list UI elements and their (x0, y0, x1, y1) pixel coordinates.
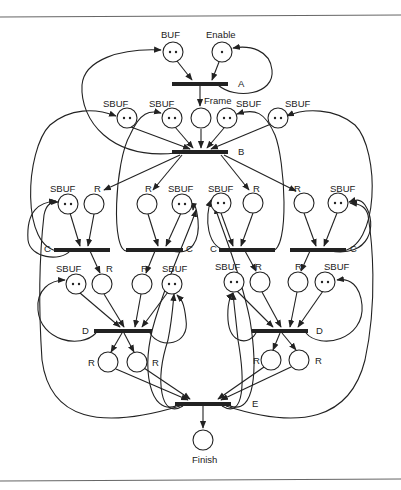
place-c-r4: R (294, 183, 314, 213)
svg-text:SBUF: SBUF (149, 98, 175, 109)
petri-net-diagram: A B C C C C D D E BUF Enable (0, 0, 401, 490)
place-e-r3: R (253, 350, 281, 370)
svg-text:R: R (145, 183, 152, 194)
svg-text:SBUF: SBUF (330, 183, 356, 194)
top-rule (0, 15, 401, 17)
svg-text:SBUF: SBUF (236, 98, 262, 109)
place-c-sbuf3: SBUF (208, 183, 234, 213)
arcs (28, 47, 373, 428)
place-enable: Enable (206, 29, 236, 62)
place-c-r3: R (243, 183, 263, 213)
svg-text:BUF: BUF (161, 29, 180, 40)
svg-text:R: R (315, 355, 322, 366)
bottom-rule (0, 479, 401, 481)
place-c-r1: R (84, 183, 104, 214)
place-c-sbuf1: SBUF (50, 183, 78, 214)
transition-c1: C (44, 243, 110, 254)
svg-text:SBUF: SBUF (50, 183, 76, 194)
svg-text:R: R (106, 263, 113, 274)
svg-text:Frame: Frame (204, 95, 231, 106)
place-buf: BUF (161, 29, 183, 62)
svg-text:Finish: Finish (192, 454, 217, 465)
svg-text:SBUF: SBUF (162, 263, 188, 274)
svg-text:R: R (152, 357, 159, 368)
place-c-sbuf4: SBUF (328, 183, 356, 213)
svg-text:R: R (295, 261, 302, 272)
transition-c4: C (290, 243, 357, 254)
svg-text:SBUF: SBUF (208, 183, 234, 194)
place-d-r2: R (132, 263, 152, 294)
svg-text:R: R (294, 183, 301, 194)
place-e-r2: R (127, 352, 159, 372)
svg-text:R: R (255, 261, 262, 272)
svg-text:E: E (252, 398, 258, 409)
svg-text:C: C (186, 243, 193, 254)
transition-d2: D (252, 325, 323, 336)
place-d-r1: R (92, 263, 113, 294)
place-d-sbuf3: SBUF (215, 261, 244, 292)
place-sbuf-b4: SBUF (268, 98, 311, 128)
place-d-r4: R (288, 261, 308, 292)
place-c-sbuf2: SBUF (168, 183, 194, 214)
place-d-sbuf1: SBUF (56, 263, 86, 294)
svg-text:R: R (141, 263, 148, 274)
transition-b: B (172, 146, 244, 157)
svg-text:B: B (238, 146, 244, 157)
place-d-sbuf4: SBUF (315, 261, 350, 292)
svg-text:D: D (316, 325, 323, 336)
svg-text:Enable: Enable (206, 29, 236, 40)
svg-text:D: D (82, 325, 89, 336)
place-c-r2: R (137, 183, 157, 214)
place-finish: Finish (192, 430, 217, 465)
svg-text:SBUF: SBUF (56, 263, 82, 274)
svg-text:SBUF: SBUF (103, 98, 129, 109)
place-sbuf-b2: SBUF (149, 98, 182, 128)
svg-text:SBUF: SBUF (168, 183, 194, 194)
svg-text:SBUF: SBUF (324, 261, 350, 272)
svg-text:C: C (210, 243, 217, 254)
transition-a: A (172, 78, 245, 89)
place-d-sbuf2: SBUF (162, 263, 188, 294)
transition-d1: D (82, 325, 152, 336)
place-e-r1: R (88, 352, 118, 372)
place-e-r4: R (289, 350, 322, 370)
svg-text:R: R (88, 357, 95, 368)
svg-text:R: R (94, 183, 101, 194)
svg-text:SBUF: SBUF (285, 98, 311, 109)
svg-text:C: C (350, 243, 357, 254)
svg-text:R: R (253, 355, 260, 366)
svg-text:SBUF: SBUF (215, 261, 241, 272)
transition-c3: C (210, 243, 275, 254)
svg-text:C: C (44, 243, 51, 254)
svg-text:R: R (253, 183, 260, 194)
svg-text:A: A (238, 78, 245, 89)
